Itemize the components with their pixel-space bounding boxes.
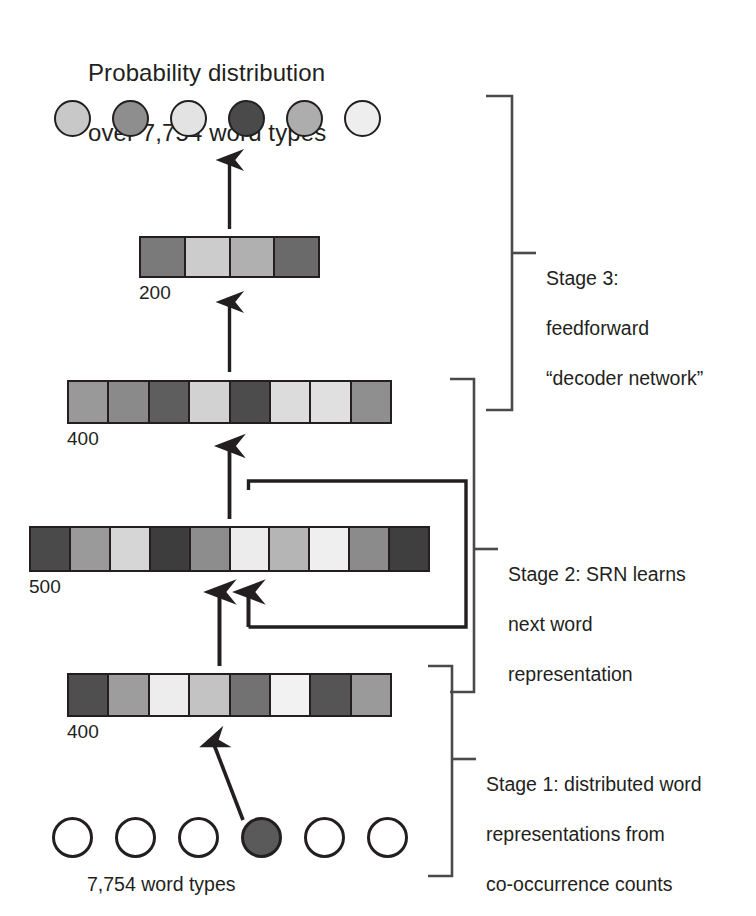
stage-3-label: Stage 3: feedforward “decoder network” bbox=[546, 241, 754, 416]
layer-hidden-400-upper[interactable] bbox=[67, 380, 392, 424]
vector-cell bbox=[111, 528, 151, 570]
stage-1-label-line-3: co-occurrence counts bbox=[486, 872, 754, 897]
vector-cell bbox=[231, 528, 271, 570]
output-unit-active[interactable] bbox=[228, 100, 265, 137]
input-unit[interactable] bbox=[52, 817, 93, 858]
stage-2-label: Stage 2: SRN learns next word representa… bbox=[508, 537, 752, 712]
stage-3-label-line-3: “decoder network” bbox=[546, 366, 754, 391]
vector-cell bbox=[109, 382, 149, 422]
stage-1-label-line-1: Stage 1: distributed word bbox=[486, 772, 754, 797]
vector-cell bbox=[69, 382, 109, 422]
vector-cell bbox=[191, 528, 231, 570]
vector-cell bbox=[271, 382, 311, 422]
layer-size-label-400-upper: 400 bbox=[67, 428, 99, 450]
vector-cell bbox=[150, 675, 190, 715]
vector-cell bbox=[311, 675, 351, 715]
bracket-stage-1 bbox=[428, 666, 476, 876]
bracket-stage-3 bbox=[486, 96, 536, 410]
vector-cell bbox=[231, 238, 276, 276]
layer-size-label-500: 500 bbox=[29, 576, 61, 598]
arrow-input-unit-to-400 bbox=[213, 742, 243, 820]
stage-3-label-line-2: feedforward bbox=[546, 316, 754, 341]
stage-2-label-line-2: next word bbox=[508, 612, 752, 637]
stage-3-label-line-1: Stage 3: bbox=[546, 266, 754, 291]
input-unit[interactable] bbox=[178, 817, 219, 858]
input-layer-caption: 7,754 word types bbox=[87, 872, 236, 896]
vector-cell bbox=[186, 238, 231, 276]
vector-cell bbox=[71, 528, 111, 570]
bracket-stage-2 bbox=[450, 379, 498, 692]
page-title-line-1: Probability distribution bbox=[88, 58, 418, 88]
stage-2-label-line-3: representation bbox=[508, 662, 752, 687]
vector-cell bbox=[190, 675, 230, 715]
vector-cell bbox=[352, 382, 390, 422]
vector-cell bbox=[270, 528, 310, 570]
vector-cell bbox=[310, 528, 350, 570]
input-unit[interactable] bbox=[304, 817, 345, 858]
vector-cell bbox=[31, 528, 71, 570]
vector-cell bbox=[69, 675, 109, 715]
layer-size-label-200: 200 bbox=[139, 282, 171, 304]
vector-cell bbox=[390, 528, 428, 570]
output-unit[interactable] bbox=[286, 100, 323, 137]
output-unit[interactable] bbox=[170, 100, 207, 137]
vector-cell bbox=[231, 675, 271, 715]
vector-cell bbox=[150, 382, 190, 422]
diagram-canvas: Probability distribution over 7,754 word… bbox=[0, 0, 756, 916]
layer-size-label-400-input: 400 bbox=[67, 721, 99, 743]
vector-cell bbox=[190, 382, 230, 422]
stage-1-label-line-2: representations from bbox=[486, 822, 754, 847]
vector-cell bbox=[275, 238, 318, 276]
layer-input-400[interactable] bbox=[67, 673, 392, 717]
vector-cell bbox=[352, 675, 390, 715]
output-unit[interactable] bbox=[112, 100, 149, 137]
output-unit[interactable] bbox=[344, 100, 381, 137]
vector-cell bbox=[109, 675, 149, 715]
input-unit[interactable] bbox=[367, 817, 408, 858]
vector-cell bbox=[271, 675, 311, 715]
vector-cell bbox=[141, 238, 186, 276]
input-unit[interactable] bbox=[115, 817, 156, 858]
vector-cell bbox=[311, 382, 351, 422]
output-unit[interactable] bbox=[54, 100, 91, 137]
stage-1-label: Stage 1: distributed word representation… bbox=[486, 747, 754, 916]
layer-srn-500[interactable] bbox=[29, 526, 430, 572]
layer-hidden-200[interactable] bbox=[139, 236, 320, 278]
vector-cell bbox=[350, 528, 390, 570]
stage-2-label-line-1: Stage 2: SRN learns bbox=[508, 562, 752, 587]
vector-cell bbox=[151, 528, 191, 570]
vector-cell bbox=[231, 382, 271, 422]
input-unit-active[interactable] bbox=[241, 817, 282, 858]
